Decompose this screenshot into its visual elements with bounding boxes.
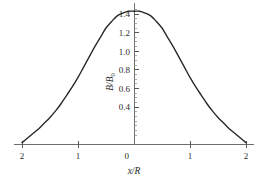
y-axis-tick-label: 1.4: [119, 9, 131, 19]
x-axis-tick-label: 0: [125, 151, 130, 161]
x-axis-tick-label: 1: [188, 151, 193, 161]
axes-layer: [14, 3, 255, 145]
x-axis-tick-label: 1: [76, 151, 81, 161]
y-axis-tick-label: 0.6: [119, 84, 131, 94]
y-axis-tick-label: 1.2: [119, 28, 130, 38]
x-axis-title: x/R: [127, 166, 141, 176]
y-axis-tick-label: 1.0: [119, 47, 131, 57]
figure-container: 210120.40.60.81.01.21.4x/RB/B0: [0, 0, 272, 179]
x-axis-tick-label: 2: [20, 151, 25, 161]
y-axis-title: B/B0: [105, 73, 116, 91]
y-axis-tick-label: 0.8: [119, 65, 131, 75]
y-axis-tick-label: 0.4: [119, 102, 131, 112]
x-axis-tick-label: 2: [244, 151, 249, 161]
helmholtz-field-plot: 210120.40.60.81.01.21.4x/RB/B0: [0, 0, 272, 179]
